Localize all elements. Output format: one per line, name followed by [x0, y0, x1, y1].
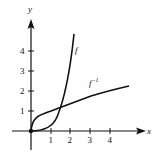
label-f-inverse: f−1 [89, 77, 99, 88]
function-inverse-diagram: x y 1 2 3 4 1 2 3 4 f f−1 [0, 0, 158, 157]
x-tick-2: 2 [68, 135, 73, 145]
y-tick-3: 3 [20, 66, 25, 76]
y-tick-1: 1 [20, 106, 25, 116]
y-tick-2: 2 [20, 86, 25, 96]
x-tick-1: 1 [49, 135, 54, 145]
x-tick-4: 4 [108, 135, 113, 145]
x-tick-3: 3 [88, 135, 93, 145]
x-axis-label: x [146, 126, 151, 136]
label-f: f [75, 45, 79, 55]
curve-f-inverse [31, 86, 129, 131]
y-axis-label: y [27, 4, 32, 14]
label-f-inverse-superscript: −1 [92, 77, 99, 83]
y-tick-4: 4 [20, 46, 25, 56]
